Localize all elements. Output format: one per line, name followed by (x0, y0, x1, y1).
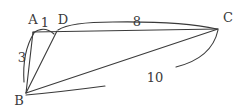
point-label-d: D (58, 13, 68, 26)
point-label-c: C (223, 11, 233, 24)
point-label-b: B (14, 94, 24, 107)
segment-cb (26, 29, 218, 93)
geometry-diagram: A 1 D 8 C 3 B 10 (0, 0, 246, 107)
measure-ab: 3 (18, 51, 26, 64)
segment-ac (33, 29, 218, 32)
measure-ad: 1 (41, 16, 49, 29)
point-label-a: A (28, 13, 37, 26)
measure-dc: 8 (133, 15, 141, 28)
brace-bc-tail (26, 86, 105, 95)
measure-bc: 10 (147, 71, 164, 84)
